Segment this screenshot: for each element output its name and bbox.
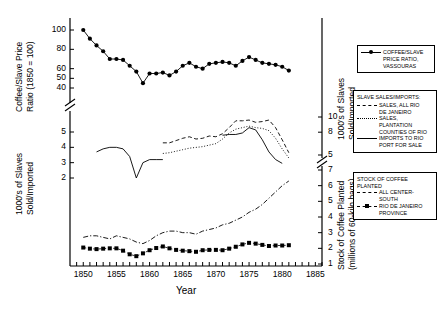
x-axis-title: Year <box>176 285 196 296</box>
x-tick-label: 1850 <box>71 270 95 279</box>
legend-swatch-icon <box>357 115 377 122</box>
axes-group <box>65 18 327 266</box>
legend-label: COFFEE/SLAVE <box>383 49 423 56</box>
legend-label: IMPORTS TO RIO <box>379 135 423 142</box>
legend-swatch-icon <box>357 203 377 210</box>
left-bottom-tick-label: 5 <box>44 127 66 136</box>
left-top-tick-label: 40 <box>44 83 66 92</box>
x-tick-label: 1880 <box>270 270 294 279</box>
right-bottom-tick-label: 3 <box>328 228 344 237</box>
left-top-tick-label: 50 <box>44 73 66 82</box>
right-bottom-tick-label: 7 <box>328 165 344 174</box>
left-top-tick-label: 60 <box>44 64 66 73</box>
legend-swatch-icon <box>357 135 377 142</box>
x-tick-label: 1860 <box>138 270 162 279</box>
left-bottom-tick-label: 3 <box>44 158 66 167</box>
series-imports-to-rio-port-for-sale <box>97 128 283 178</box>
legend-slave-sales-title: SLAVE SALES/IMPORTS: <box>357 94 433 101</box>
legend-slave-sales-imports[interactable]: SLAVE SALES/IMPORTS:SALES, ALL RIODE JAN… <box>353 90 437 153</box>
legend-slave-sales-row-2[interactable]: SALES, <box>357 115 433 122</box>
legend-coffee-stock-row-0[interactable]: ALL CENTER- <box>357 189 433 196</box>
legend-coffee-stock-row-2[interactable]: RIO DE JANEIRO <box>357 203 433 210</box>
legend-slave-sales-row-5[interactable]: IMPORTS TO RIO <box>357 135 433 142</box>
left-axis-bottom-title-line1: 1000's of Slaves <box>14 153 24 215</box>
right-bottom-tick-label: 6 <box>328 181 344 190</box>
right-top-tick-label: 10 <box>328 112 344 121</box>
left-axis-bottom-title-line2: Sold/Imported <box>25 162 35 215</box>
left-top-tick-label: 80 <box>44 44 66 53</box>
legend-label: SALES, <box>379 115 398 122</box>
series-rio-de-janeiro-province <box>81 241 291 258</box>
legend-coffee-stock-row-1: SOUTH <box>357 196 433 203</box>
x-tick-label: 1870 <box>204 270 228 279</box>
legend-label: RIO DE JANEIRO <box>379 203 422 210</box>
right-bottom-tick-label: 2 <box>328 243 344 252</box>
legend-coffee-stock-title-line1: STOCK OF COFFEE <box>357 176 433 183</box>
legend-swatch-icon <box>361 49 381 56</box>
legend-slave-sales-row-3: PLANTATION <box>357 122 433 129</box>
legend-price-ratio-row-1: PRICE RATIO, <box>361 56 431 63</box>
x-tick-label: 1855 <box>104 270 128 279</box>
x-tick-label: 1885 <box>303 270 327 279</box>
series-all-center-south <box>83 181 289 244</box>
legend-slave-sales-row-0[interactable]: SALES, ALL RIO <box>357 102 433 109</box>
legend-coffee-stock-row-3: PROVINCE <box>357 210 433 217</box>
right-top-tick-label: 5 <box>328 150 344 159</box>
series-group <box>81 28 291 258</box>
right-bottom-tick-label: 1 <box>328 259 344 268</box>
legend-price-ratio-row-2: VASSOURAS <box>361 63 431 70</box>
legend-slave-sales-row-6: PORT FOR SALE <box>357 142 433 149</box>
legend-coffee-stock-title-line2: PLANTED <box>357 183 433 190</box>
left-bottom-tick-label: 4 <box>44 142 66 151</box>
right-bottom-tick-label: 5 <box>328 196 344 205</box>
chart-figure: Coffee/Slave Price Ratio (1850 = 100) 10… <box>0 0 439 309</box>
left-bottom-tick-label: 2 <box>44 173 66 182</box>
x-tick-label: 1875 <box>237 270 261 279</box>
left-axis-top-title-line2: Ratio (1850 = 100) <box>25 41 35 112</box>
legend-price-ratio-row-0[interactable]: COFFEE/SLAVE <box>361 49 431 56</box>
x-tick-label: 1865 <box>171 270 195 279</box>
legend-stock-of-coffee-planted[interactable]: STOCK OF COFFEEPLANTEDALL CENTER-SOUTHRI… <box>353 172 437 220</box>
series-coffee-slave-price-ratio-vassouras <box>81 28 291 85</box>
left-top-tick-label: 100 <box>44 25 66 34</box>
legend-swatch-icon <box>357 189 377 196</box>
series-sales-all-rio-de-janeiro <box>163 120 289 153</box>
legend-label: ALL CENTER- <box>379 189 414 196</box>
legend-slave-sales-row-4: COUNTIES OF RIO <box>357 129 433 136</box>
left-axis-top-title-line1: Coffee/Slave Price <box>14 42 24 112</box>
legend-swatch-icon <box>357 102 377 109</box>
right-top-tick-label: 8 <box>328 127 344 136</box>
legend-coffee-slave-price-ratio[interactable]: COFFEE/SLAVEPRICE RATIO,VASSOURAS <box>357 45 435 73</box>
legend-label: SALES, ALL RIO <box>379 102 420 109</box>
right-bottom-tick-label: 4 <box>328 212 344 221</box>
right-axis-bottom-title-line1: Stock of Coffee Planted <box>336 181 346 270</box>
legend-slave-sales-row-1: DE JANEIRO <box>357 109 433 116</box>
